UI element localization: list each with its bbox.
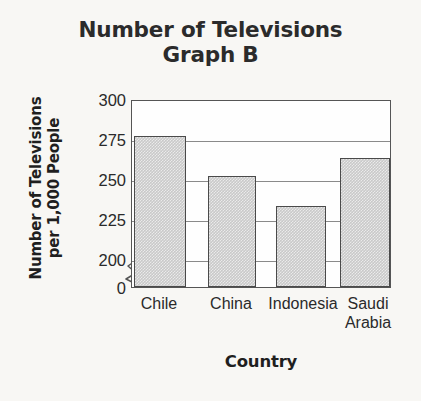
x-tick-china-line-1: China: [199, 294, 263, 313]
x-tick-saudi-arabia-line-2: Arabia: [338, 313, 398, 332]
bar-saudi-arabia: [340, 158, 390, 287]
y-tick-300: 300: [70, 91, 126, 110]
bar-china: [208, 176, 256, 287]
x-tick-china: China: [199, 294, 263, 313]
bar-chile: [134, 136, 186, 287]
x-tick-chile: Chile: [127, 294, 191, 313]
x-tick-chile-line-1: Chile: [127, 294, 191, 313]
x-tick-indonesia-line-1: Indonesia: [264, 294, 342, 313]
chart-title: Number of Televisions Graph B: [0, 18, 421, 67]
y-tick-250: 250: [70, 171, 126, 190]
plot-area: [131, 100, 391, 288]
bar-indonesia: [276, 206, 326, 287]
x-tick-indonesia: Indonesia: [264, 294, 342, 313]
y-axis-title-line-1: Number of Televisions: [28, 97, 46, 280]
y-axis-title: Number of Televisions per 1,000 People: [24, 88, 68, 288]
y-tick-0: 0: [70, 279, 126, 298]
chart-title-line-1: Number of Televisions: [0, 18, 421, 43]
y-axis-title-line-2: per 1,000 People: [46, 97, 64, 280]
y-tick-200: 200: [70, 251, 126, 270]
chart-title-line-2: Graph B: [0, 43, 421, 68]
x-axis-tick-labels: Chile China Indonesia Saudi Arabia: [131, 294, 391, 350]
x-tick-saudi-arabia: Saudi Arabia: [338, 294, 398, 332]
x-tick-saudi-arabia-line-1: Saudi: [338, 294, 398, 313]
y-axis-tick-labels: 300 275 250 225 200 0: [66, 0, 126, 401]
chart-page: Number of Televisions Graph B Number of …: [0, 0, 421, 401]
y-tick-275: 275: [70, 131, 126, 150]
x-axis-title: Country: [131, 352, 391, 371]
y-tick-225: 225: [70, 211, 126, 230]
